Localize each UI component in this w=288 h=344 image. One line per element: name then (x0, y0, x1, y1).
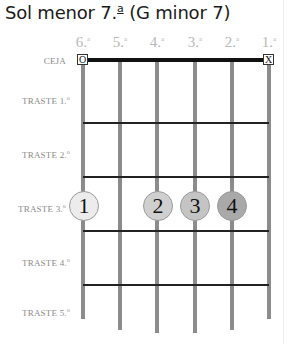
page-edge-line (283, 0, 284, 344)
fret-line-3 (83, 230, 269, 232)
fret-label-1: TRASTE 1.o (0, 95, 70, 106)
string-number-2: 2.a (217, 34, 247, 51)
finger-dot-4: 4 (217, 191, 247, 221)
muted-string-marker: X (263, 54, 274, 65)
string-number-1: 1.a (254, 34, 284, 51)
finger-dot-1: 1 (69, 191, 99, 221)
finger-dot-3: 3 (180, 191, 210, 221)
fret-label-5: TRASTE 5.o (0, 307, 70, 318)
string-number-3: 3.a (180, 34, 210, 51)
chord-title: Sol menor 7.a (G minor 7) (5, 2, 230, 23)
nut-label: CEJA (0, 56, 66, 66)
open-string-marker: O (77, 54, 88, 65)
fret-line-2 (83, 176, 269, 178)
fret-label-4: TRASTE 4.o (0, 257, 70, 268)
string-number-6: 6.a (68, 34, 98, 51)
fret-line-1 (83, 122, 269, 124)
string-number-4: 4.a (142, 34, 172, 51)
guitar-string-6 (81, 60, 85, 319)
fret-label-3: TRASTE 3.o (0, 203, 66, 214)
guitar-string-5 (118, 60, 122, 330)
string-number-5: 5.a (105, 34, 135, 51)
finger-dot-2: 2 (143, 191, 173, 221)
nut-bar (78, 58, 272, 62)
guitar-string-1 (267, 60, 271, 319)
fret-label-2: TRASTE 2.o (0, 149, 70, 160)
fret-line-4 (83, 284, 269, 286)
